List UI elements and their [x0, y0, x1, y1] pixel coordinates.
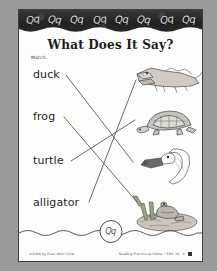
- band-letter-qq: Qq: [137, 13, 151, 25]
- source-note: Reading Practice at Home • EMC 10 · A: [119, 252, 192, 256]
- band-letter-qq: Qq: [70, 14, 84, 26]
- source-label: Reading Practice at Home • EMC 10 · A: [119, 252, 185, 256]
- turtle-illustration[interactable]: [131, 106, 203, 140]
- band-letter-qq: Qq: [115, 14, 129, 26]
- band-letter-qq: Qq: [25, 13, 40, 26]
- band-letter-qq: Qq: [182, 14, 196, 26]
- picture-column: [131, 62, 203, 234]
- word-item-duck[interactable]: duck: [33, 68, 60, 81]
- footer-badge-label: Qq: [105, 227, 115, 236]
- page-marker-box: [188, 252, 192, 256]
- duck-illustration[interactable]: [131, 144, 203, 186]
- header-band: Qq Qq Qq Qq Qq Qq Qq Qq: [19, 10, 202, 34]
- instruction-text: Match.: [31, 55, 47, 60]
- footer-text-row: ©2008 by Evan-Moor Corp. Reading Practic…: [19, 252, 202, 256]
- band-letter-qq: Qq: [92, 13, 107, 26]
- footer-letter-badge: Qq: [99, 220, 122, 243]
- page-title: What Does It Say?: [19, 38, 202, 52]
- word-item-turtle[interactable]: turtle: [33, 154, 64, 167]
- frog-illustration[interactable]: [131, 190, 203, 232]
- worksheet-page: Qq Qq Qq Qq Qq Qq Qq Qq What Does It Say…: [18, 9, 203, 262]
- copyright-note: ©2008 by Evan-Moor Corp.: [29, 252, 75, 256]
- alligator-illustration[interactable]: [131, 60, 203, 100]
- matching-activity: duck frog turtle alligator: [19, 62, 203, 234]
- band-wave-edge: [19, 26, 202, 34]
- band-letter-qq: Qq: [47, 13, 61, 25]
- scan-background: Qq Qq Qq Qq Qq Qq Qq Qq What Does It Say…: [0, 0, 217, 271]
- word-item-alligator[interactable]: alligator: [33, 196, 79, 209]
- word-item-frog[interactable]: frog: [33, 110, 55, 123]
- word-column: duck frog turtle alligator: [19, 62, 114, 234]
- band-letter-qq: Qq: [159, 13, 174, 26]
